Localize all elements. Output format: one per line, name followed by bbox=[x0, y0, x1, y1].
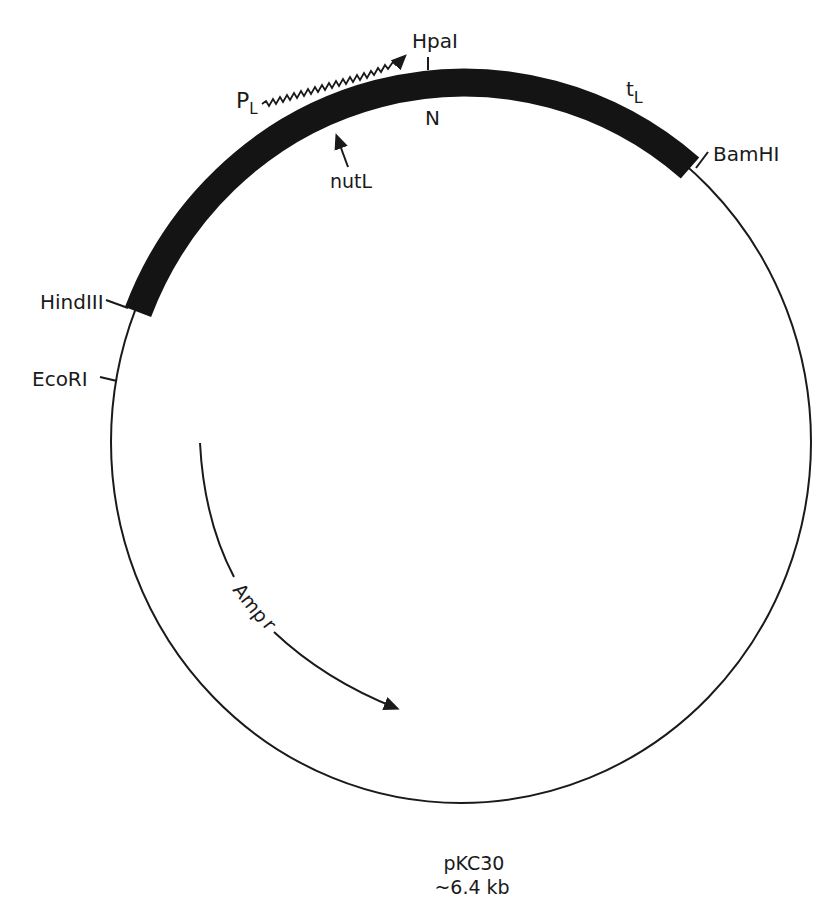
hindiii-tick bbox=[106, 300, 128, 308]
lambda-insert-band bbox=[138, 83, 690, 312]
nutl-label: nutL bbox=[330, 170, 373, 192]
promoter-pl-label: PL bbox=[236, 88, 258, 118]
hpai-label: HpaI bbox=[412, 29, 458, 53]
ampr-arrow-lower bbox=[274, 632, 396, 708]
ecori-tick bbox=[100, 377, 117, 381]
hindiii-label: HindIII bbox=[40, 290, 104, 314]
ampr-arrow-upper bbox=[200, 443, 234, 577]
bamhi-tick bbox=[696, 152, 708, 168]
nutl-arrow bbox=[337, 137, 348, 167]
ampr-label: Ampr bbox=[229, 578, 282, 636]
plasmid-size: ~6.4 kb bbox=[434, 876, 509, 898]
terminator-tl-label: tL bbox=[626, 77, 643, 107]
bamhi-label: BamHI bbox=[713, 142, 779, 166]
plasmid-map: HpaI BamHI HindIII EcoRI PL N tL nutL Am… bbox=[0, 0, 836, 920]
plasmid-name: pKC30 bbox=[444, 852, 505, 874]
gene-n-label: N bbox=[425, 106, 440, 130]
ecori-label: EcoRI bbox=[32, 367, 88, 391]
